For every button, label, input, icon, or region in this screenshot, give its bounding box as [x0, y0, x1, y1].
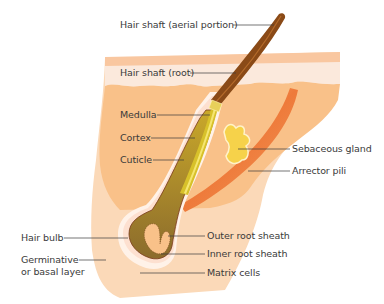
label-matrix-cells: Matrix cells — [207, 267, 260, 278]
label-inner-root-sheath: Inner root sheath — [207, 248, 287, 259]
label-hair-bulb: Hair bulb — [21, 232, 63, 243]
label-medulla: Medulla — [120, 109, 157, 120]
label-hair-shaft-aerial: Hair shaft (aerial portion) — [120, 19, 238, 30]
label-germinative-line1: Germinative — [21, 254, 78, 265]
label-cortex: Cortex — [120, 132, 151, 143]
label-cuticle: Cuticle — [120, 154, 152, 165]
label-outer-root-sheath: Outer root sheath — [207, 230, 290, 241]
label-germinative-line2: or basal layer — [21, 266, 84, 277]
label-hair-shaft-root: Hair shaft (root) — [120, 67, 194, 78]
label-arrector-pili: Arrector pili — [292, 165, 346, 176]
label-sebaceous-gland: Sebaceous gland — [292, 143, 372, 154]
